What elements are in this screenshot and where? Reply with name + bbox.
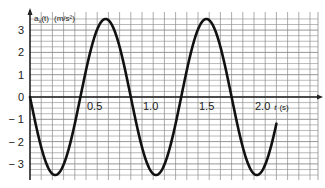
- y-label-unit: (m/s²): [54, 14, 75, 23]
- y-tick-labels: 3210− 1− 2− 3: [8, 24, 24, 170]
- x-tick-label: 2.0: [255, 100, 270, 112]
- grid-lines: [30, 12, 318, 180]
- y-tick-label: 3: [18, 24, 24, 36]
- y-tick-label: − 1: [8, 113, 24, 125]
- x-tick-label: 1.5: [199, 100, 214, 112]
- y-tick-label: 0: [18, 91, 24, 103]
- acceleration-chart: 3210− 1− 2− 3 0.51.01.52.0 ax(t)(m/s²) t…: [0, 0, 325, 188]
- y-label-arg: (t): [41, 14, 49, 23]
- x-tick-label: 1.0: [143, 100, 158, 112]
- y-tick-label: 2: [18, 46, 24, 58]
- y-tick-label: − 2: [8, 136, 24, 148]
- x-axis-label: t(s): [274, 103, 289, 112]
- y-axis-arrow-icon: [28, 8, 33, 15]
- x-label-unit: (s): [279, 103, 289, 112]
- y-tick-label: 1: [18, 69, 24, 81]
- x-tick-label: 0.5: [87, 100, 102, 112]
- y-axis-label: ax(t)(m/s²): [34, 14, 75, 24]
- x-axis-arrow-icon: [317, 95, 323, 100]
- y-tick-label: − 3: [8, 158, 24, 170]
